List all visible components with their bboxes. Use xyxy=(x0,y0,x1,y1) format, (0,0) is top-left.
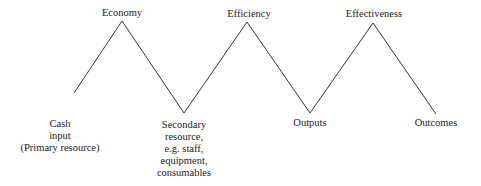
peak-label-effectiveness: Effectiveness xyxy=(346,8,402,20)
valley-label-secondary-resource: Secondary resource, e.g. staff, equipmen… xyxy=(157,119,211,179)
peak-label-efficiency: Efficiency xyxy=(227,8,271,20)
valley-label-cash-input: Cash input (Primary resource) xyxy=(20,118,99,154)
valley-label-outcomes: Outcomes xyxy=(415,117,458,129)
valley-label-outputs: Outputs xyxy=(293,117,326,129)
zigzag-connector-lines xyxy=(0,0,481,186)
zigzag-polyline xyxy=(74,21,436,114)
peak-label-economy: Economy xyxy=(102,7,142,19)
